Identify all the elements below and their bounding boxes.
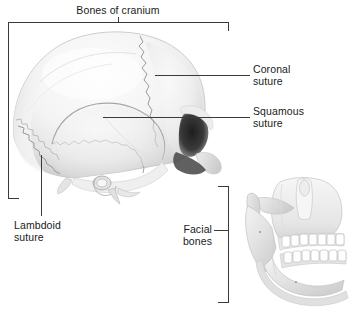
label-bones-of-cranium: Bones of cranium bbox=[58, 5, 178, 17]
skull-lateral-illustration bbox=[0, 20, 235, 210]
coronal-suture-leader-line bbox=[155, 75, 250, 76]
facial-bones-stem bbox=[214, 230, 229, 231]
mental-foramen bbox=[295, 281, 297, 283]
label-coronal-suture-line2: suture bbox=[253, 76, 283, 88]
nasal-aperture bbox=[300, 180, 310, 196]
facial-bones-bracket-bottom-tick bbox=[218, 302, 229, 303]
squamous-suture-leader-line bbox=[103, 117, 250, 118]
bones-of-cranium-bracket-right-tick bbox=[228, 22, 229, 31]
label-lambdoid-suture-line2: suture bbox=[14, 232, 44, 244]
label-facial-bones-line1: Facial bbox=[144, 224, 212, 236]
label-squamous-suture-line1: Squamous bbox=[253, 106, 304, 118]
lambdoid-suture-leader-line bbox=[41, 155, 42, 216]
ear-canal-inner bbox=[97, 179, 107, 187]
label-facial-bones-line2: bones bbox=[144, 236, 212, 248]
facial-bones-bracket-top-tick bbox=[218, 186, 229, 187]
label-coronal-suture-line1: Coronal bbox=[253, 64, 290, 76]
label-lambdoid-suture-line1: Lambdoid bbox=[14, 220, 61, 232]
facial-bones-illustration bbox=[236, 176, 352, 310]
facial-bones-bracket bbox=[228, 186, 229, 302]
bones-of-cranium-bracket-left bbox=[8, 22, 9, 199]
parietal-highlight bbox=[42, 48, 142, 100]
skull-anatomy-figure: Bones of cranium orbit bbox=[0, 0, 352, 312]
mandibular-foramen bbox=[259, 231, 261, 233]
bones-of-cranium-bracket-bottom-tick bbox=[8, 198, 19, 199]
bones-of-cranium-bracket-top bbox=[8, 22, 229, 23]
label-squamous-suture-line2: suture bbox=[253, 118, 283, 130]
occipital-base bbox=[57, 178, 72, 194]
